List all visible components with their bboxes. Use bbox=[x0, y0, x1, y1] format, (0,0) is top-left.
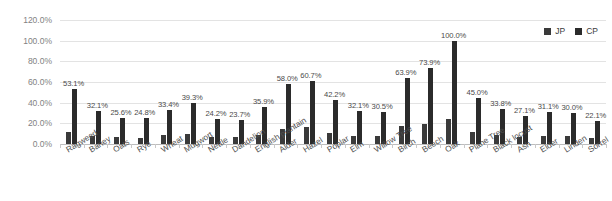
bar-group: 42.2% bbox=[321, 20, 345, 144]
bar-group: 24.2% bbox=[202, 20, 226, 144]
bar-group: 30.5% bbox=[369, 20, 393, 144]
bar-group: 24.8% bbox=[131, 20, 155, 144]
bar-value-label: 33.8% bbox=[490, 99, 511, 108]
legend-entry: CP bbox=[575, 26, 598, 36]
bar-cp bbox=[428, 68, 433, 144]
bar-value-label: 39.3% bbox=[182, 93, 203, 102]
bar-group: 32.1% bbox=[345, 20, 369, 144]
bar-value-label: 35.9% bbox=[253, 97, 274, 106]
bar-cp bbox=[72, 89, 77, 144]
bar-value-label: 30.0% bbox=[561, 103, 582, 112]
bar-group: 30.0% bbox=[558, 20, 582, 144]
legend-entry: JP bbox=[544, 26, 565, 36]
bar-value-label: 24.2% bbox=[205, 109, 226, 118]
legend-label: JP bbox=[555, 26, 565, 36]
bar-value-label: 23.7% bbox=[229, 110, 250, 119]
bar-group: 73.9% bbox=[416, 20, 440, 144]
y-axis-tick-label: 100.0% bbox=[23, 36, 52, 46]
bar-group: 31.1% bbox=[535, 20, 559, 144]
y-axis-tick-label: 80.0% bbox=[28, 56, 52, 66]
bar-value-label: 53.1% bbox=[63, 79, 84, 88]
legend-label: CP bbox=[586, 26, 598, 36]
bar-group: 53.1% bbox=[60, 20, 84, 144]
bar-group: 100.0% bbox=[440, 20, 464, 144]
bar-value-label: 31.1% bbox=[538, 102, 559, 111]
bar-value-label: 73.9% bbox=[419, 58, 440, 67]
x-axis-labels: RagweedBarleyOatsRyeWheatMugwortNettleDa… bbox=[60, 146, 606, 201]
bar-value-label: 42.2% bbox=[324, 90, 345, 99]
bar-group: 25.6% bbox=[107, 20, 131, 144]
bar-group: 23.7% bbox=[226, 20, 250, 144]
y-axis-labels: 120.0%100.0%80.0%60.0%40.0%20.0%0.0% bbox=[0, 20, 56, 144]
legend-swatch-icon bbox=[575, 28, 582, 35]
y-axis-tick-label: 40.0% bbox=[28, 98, 52, 108]
y-axis-tick-label: 60.0% bbox=[28, 77, 52, 87]
bar-value-label: 33.4% bbox=[158, 100, 179, 109]
bar-cp bbox=[310, 81, 315, 144]
bar-value-label: 25.6% bbox=[110, 108, 131, 117]
bar-value-label: 30.5% bbox=[372, 102, 393, 111]
bar-group: 33.4% bbox=[155, 20, 179, 144]
bar-value-label: 32.1% bbox=[348, 101, 369, 110]
legend-swatch-icon bbox=[544, 28, 551, 35]
bar-group: 22.1% bbox=[582, 20, 606, 144]
bar-value-label: 63.9% bbox=[395, 68, 416, 77]
bar-chart: 120.0%100.0%80.0%60.0%40.0%20.0%0.0% 53.… bbox=[0, 0, 612, 201]
bar-value-label: 22.1% bbox=[585, 111, 606, 120]
bar-group: 45.0% bbox=[463, 20, 487, 144]
y-axis-tick-label: 120.0% bbox=[23, 15, 52, 25]
bar-value-label: 60.7% bbox=[300, 71, 321, 80]
y-axis-tick-label: 20.0% bbox=[28, 118, 52, 128]
bar-value-label: 24.8% bbox=[134, 108, 155, 117]
bar-value-label: 45.0% bbox=[467, 88, 488, 97]
bar-value-label: 27.1% bbox=[514, 106, 535, 115]
bar-group: 32.1% bbox=[84, 20, 108, 144]
chart-legend: JPCP bbox=[544, 26, 598, 36]
bar-cp bbox=[452, 41, 457, 144]
bar-value-label: 32.1% bbox=[87, 101, 108, 110]
y-axis-tick-label: 0.0% bbox=[33, 139, 52, 149]
bar-value-label: 58.0% bbox=[277, 74, 298, 83]
bar-value-label: 100.0% bbox=[441, 31, 466, 40]
bar-group: 39.3% bbox=[179, 20, 203, 144]
